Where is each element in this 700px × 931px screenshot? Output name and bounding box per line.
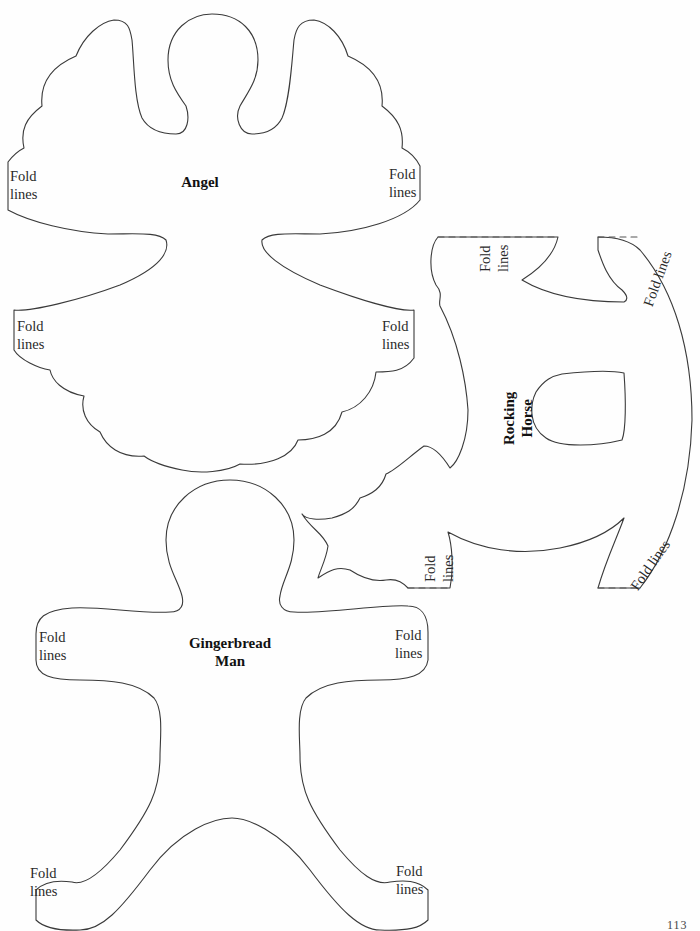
- cutout-outlines: [0, 0, 700, 931]
- fold-label-line: Fold: [39, 629, 66, 647]
- fold-label-line: lines: [10, 186, 37, 204]
- page-number: 113: [667, 918, 688, 931]
- fold-label-line: lines: [17, 336, 44, 354]
- title-line: Horse: [518, 392, 536, 445]
- title-line: Rocking: [500, 392, 518, 445]
- fold-label-line: lines: [389, 184, 416, 202]
- fold-label-line: lines: [39, 647, 66, 665]
- gingerbread-fold-label-lower-right: Fold lines: [396, 863, 423, 898]
- horse-fold-label-top-left: Fold lines: [477, 245, 512, 272]
- title-line: Man: [170, 652, 290, 670]
- fold-label-line: lines: [495, 245, 513, 272]
- fold-label-line: Fold: [389, 166, 416, 184]
- fold-label-line: Fold: [30, 865, 57, 883]
- fold-label-line: lines: [30, 883, 57, 901]
- gingerbread-man-outline: [36, 480, 428, 930]
- fold-label-line: lines: [382, 336, 409, 354]
- gingerbread-fold-label-upper-left: Fold lines: [39, 629, 66, 664]
- fold-label-line: Fold: [477, 245, 495, 272]
- horse-fold-label-bottom-left: Fold lines: [422, 555, 457, 582]
- gingerbread-fold-label-lower-left: Fold lines: [30, 865, 57, 900]
- fold-label-line: lines: [396, 881, 423, 899]
- fold-label-line: Fold: [396, 863, 423, 881]
- fold-label-line: lines: [395, 645, 422, 663]
- angel-fold-label-lower-left: Fold lines: [17, 318, 44, 353]
- rocking-horse-outline: [302, 237, 692, 588]
- fold-label-line: Fold: [382, 318, 409, 336]
- fold-label-line: lines: [440, 555, 458, 582]
- fold-label-line: Fold: [422, 555, 440, 582]
- title-line: Gingerbread: [170, 634, 290, 652]
- angel-fold-label-upper-right: Fold lines: [389, 166, 416, 201]
- angel-fold-label-lower-right: Fold lines: [382, 318, 409, 353]
- angel-outline: [8, 14, 420, 472]
- fold-label-line: Fold: [395, 627, 422, 645]
- gingerbread-fold-label-upper-right: Fold lines: [395, 627, 422, 662]
- gingerbread-man-title: Gingerbread Man: [170, 634, 290, 671]
- angel-fold-label-upper-left: Fold lines: [10, 168, 37, 203]
- template-page: Angel Fold lines Fold lines Fold lines F…: [0, 0, 700, 931]
- fold-label-line: Fold: [17, 318, 44, 336]
- angel-title: Angel: [170, 173, 230, 191]
- rocking-horse-title: Rocking Horse: [500, 392, 537, 445]
- fold-label-line: Fold: [10, 168, 37, 186]
